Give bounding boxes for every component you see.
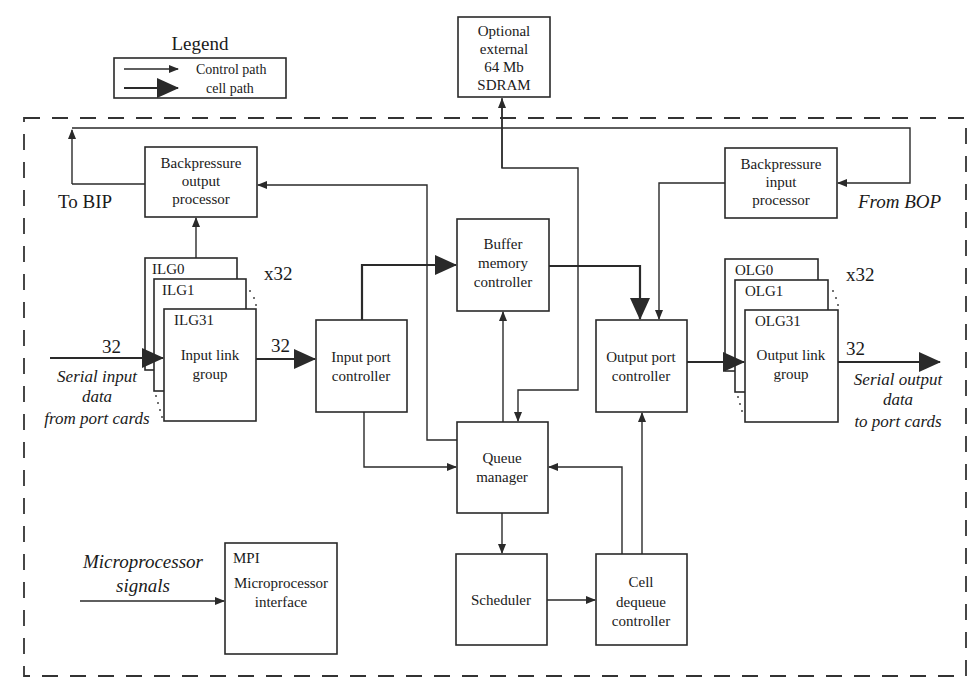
scheduler: Scheduler bbox=[456, 554, 547, 645]
cell-dequeue-controller: Cell dequeue controller bbox=[596, 554, 687, 645]
svg-text:from port cards: from port cards bbox=[44, 409, 150, 428]
from-bop-arrow bbox=[838, 148, 910, 183]
svg-text:ILG0: ILG0 bbox=[152, 261, 185, 277]
svg-text:ILG1: ILG1 bbox=[162, 282, 195, 298]
svg-text:output: output bbox=[182, 173, 221, 189]
svg-text:Output port: Output port bbox=[606, 349, 676, 365]
switch-block-diagram: Legend Control path cell path Optional e… bbox=[0, 0, 980, 696]
legend: Legend Control path cell path bbox=[114, 33, 286, 98]
svg-text:Backpressure: Backpressure bbox=[741, 156, 822, 172]
input-port-controller: Input port controller bbox=[316, 320, 407, 412]
olg-multiplier: x32 bbox=[846, 264, 875, 285]
svg-text:Buffer: Buffer bbox=[484, 236, 523, 252]
svg-text:controller: controller bbox=[612, 613, 670, 629]
svg-text:OLG31: OLG31 bbox=[755, 313, 801, 329]
ilg-multiplier: x32 bbox=[264, 263, 293, 284]
bus-width-in: 32 bbox=[102, 336, 121, 357]
to-bip-label: To BIP bbox=[58, 191, 112, 212]
legend-cell-path: cell path bbox=[206, 81, 254, 96]
svg-text:external: external bbox=[480, 41, 528, 57]
serial-output-label: Serial output data to port cards bbox=[854, 370, 944, 431]
ipc-to-bmc-cell-path bbox=[362, 265, 456, 320]
svg-text:manager: manager bbox=[476, 469, 528, 485]
buffer-memory-controller: Buffer memory controller bbox=[457, 219, 549, 311]
microprocessor-interface: MPI Microprocessor interface bbox=[225, 543, 337, 654]
output-port-controller: Output port controller bbox=[596, 320, 687, 412]
svg-text:interface: interface bbox=[255, 594, 308, 610]
svg-text:Output link: Output link bbox=[757, 347, 826, 363]
svg-text:Serial output: Serial output bbox=[854, 370, 944, 389]
sdram-block: Optional external 64 Mb SDRAM bbox=[458, 17, 550, 97]
svg-text:Cell: Cell bbox=[629, 574, 654, 590]
svg-text:controller: controller bbox=[332, 368, 390, 384]
svg-text:group: group bbox=[774, 366, 809, 382]
svg-text:Scheduler: Scheduler bbox=[471, 592, 531, 608]
svg-text:signals: signals bbox=[116, 575, 170, 596]
svg-text:OLG0: OLG0 bbox=[735, 262, 773, 278]
svg-text:SDRAM: SDRAM bbox=[477, 77, 530, 93]
svg-text:memory: memory bbox=[478, 255, 528, 271]
svg-text:Optional: Optional bbox=[478, 23, 531, 39]
svg-text:OLG1: OLG1 bbox=[745, 283, 783, 299]
svg-text:Input port: Input port bbox=[331, 349, 391, 365]
bus-width-ilg-ipc: 32 bbox=[271, 335, 290, 356]
bmc-to-opc-cell-path bbox=[549, 266, 640, 319]
microprocessor-signals-label: Microprocessor signals bbox=[82, 551, 204, 596]
svg-text:64 Mb: 64 Mb bbox=[484, 59, 524, 75]
svg-text:Serial input: Serial input bbox=[57, 367, 138, 386]
svg-text:Backpressure: Backpressure bbox=[161, 155, 242, 171]
svg-text:MPI: MPI bbox=[233, 550, 260, 566]
svg-text:processor: processor bbox=[172, 191, 229, 207]
backpressure-output-processor: Backpressure output processor bbox=[145, 147, 257, 217]
serial-input-label: Serial input data from port cards bbox=[44, 367, 150, 428]
svg-text:Microprocessor: Microprocessor bbox=[234, 575, 328, 591]
svg-text:Microprocessor: Microprocessor bbox=[82, 551, 204, 572]
svg-text:Queue: Queue bbox=[482, 450, 521, 466]
svg-text:ILG31: ILG31 bbox=[174, 312, 214, 328]
cdc-to-qm-arrow bbox=[549, 467, 622, 554]
from-bop-label: From BOP bbox=[857, 191, 942, 212]
svg-text:data: data bbox=[82, 387, 112, 406]
bus-width-out: 32 bbox=[846, 338, 865, 359]
svg-text:controller: controller bbox=[612, 368, 670, 384]
svg-text:group: group bbox=[193, 366, 228, 382]
svg-text:controller: controller bbox=[474, 274, 532, 290]
svg-text:processor: processor bbox=[752, 192, 809, 208]
svg-text:input: input bbox=[766, 174, 798, 190]
bip-to-opc-arrow bbox=[659, 183, 725, 319]
legend-title: Legend bbox=[172, 33, 229, 54]
svg-text:dequeue: dequeue bbox=[616, 594, 666, 610]
legend-control-path: Control path bbox=[196, 62, 266, 77]
svg-text:Input link: Input link bbox=[181, 347, 240, 363]
backpressure-top-bus bbox=[72, 128, 910, 148]
svg-text:to port cards: to port cards bbox=[854, 412, 942, 431]
svg-text:data: data bbox=[883, 390, 913, 409]
backpressure-input-processor: Backpressure input processor bbox=[725, 148, 837, 218]
queue-manager: Queue manager bbox=[457, 422, 548, 513]
